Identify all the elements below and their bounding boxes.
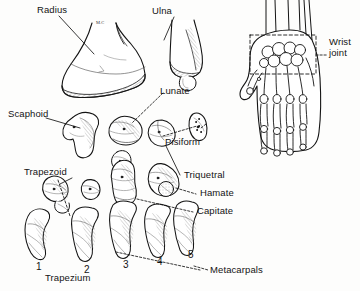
lunate-bone [109, 116, 142, 145]
label-lunate: Lunate [160, 86, 190, 97]
metacarpal-2 [72, 207, 99, 261]
metacarpal-3 [110, 201, 137, 258]
trapezium-bone [81, 180, 100, 200]
ulna-bone [170, 20, 202, 91]
anatomy-figure: Radius M.C Ulna Scaphoid Lunate Pisiform… [0, 0, 360, 291]
label-metacarpals: Metacarpals [210, 265, 263, 276]
metacarpal-number-5: 5 [188, 249, 194, 260]
label-radius: Radius [37, 5, 67, 16]
hamate-bone [148, 164, 179, 197]
label-wrist-joint: Wrist joint [329, 36, 351, 58]
metacarpal-number-4: 4 [157, 256, 163, 267]
metacarpal-number-1: 1 [36, 261, 42, 272]
label-trapezoid: Trapezoid [24, 167, 67, 178]
label-radius-marker: M.C [96, 20, 104, 25]
metacarpal-number-2: 2 [84, 264, 90, 275]
label-hamate: Hamate [200, 188, 234, 199]
label-capitate: Capitate [197, 206, 233, 217]
label-wrist-joint-line1: Wrist [329, 36, 351, 47]
metacarpal-1 [25, 209, 50, 260]
radius-bone [62, 23, 145, 98]
label-ulna: Ulna [152, 6, 172, 17]
capitate-bone [111, 160, 136, 205]
hand-skeleton [240, 0, 321, 156]
scaphoid-bone [63, 113, 99, 158]
label-scaphoid: Scaphoid [8, 109, 48, 120]
label-triquetral: Triquetral [184, 170, 225, 181]
metacarpal-4 [145, 204, 171, 257]
metacarpal-number-3: 3 [123, 259, 129, 270]
label-pisiform: Pisiform [165, 137, 200, 148]
metacarpal-5 [174, 201, 199, 255]
label-wrist-joint-line2: joint [329, 47, 347, 58]
